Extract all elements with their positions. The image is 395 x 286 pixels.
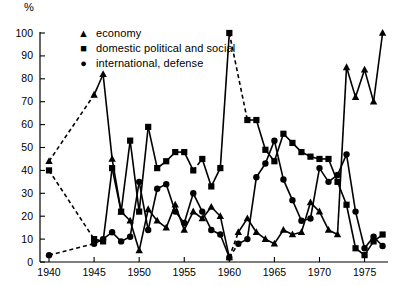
data-point-circle xyxy=(46,252,52,258)
data-point-triangle xyxy=(190,208,197,215)
data-point-square xyxy=(280,131,286,137)
data-point-circle xyxy=(118,238,124,244)
y-tick-label: 80 xyxy=(21,72,33,84)
data-point-circle xyxy=(145,227,151,233)
data-point-square xyxy=(379,231,385,237)
series-segment xyxy=(356,70,365,97)
series-segment xyxy=(356,212,365,249)
data-point-triangle xyxy=(99,70,106,77)
data-point-square xyxy=(109,165,115,171)
series-segment xyxy=(49,95,94,161)
y-tick-label: 40 xyxy=(21,164,33,176)
data-point-circle xyxy=(181,220,187,226)
data-point-circle xyxy=(226,254,232,260)
series-segment xyxy=(130,141,139,212)
x-tick-label: 1940 xyxy=(37,266,61,278)
data-point-square xyxy=(163,158,169,164)
data-point-circle xyxy=(100,236,106,242)
series-segment xyxy=(256,120,265,150)
data-point-square xyxy=(154,165,160,171)
data-point-triangle xyxy=(144,205,151,212)
series-segment xyxy=(229,33,247,120)
line-chart: % ▲ economy ■ domestic political and soc… xyxy=(0,0,395,286)
data-point-triangle xyxy=(325,226,332,233)
data-point-square xyxy=(289,140,295,146)
y-tick-label: 10 xyxy=(21,233,33,245)
data-point-circle xyxy=(154,186,160,192)
data-point-triangle xyxy=(343,63,350,70)
data-point-triangle xyxy=(108,155,115,162)
series-segment xyxy=(139,127,148,212)
data-point-square xyxy=(271,158,277,164)
series-segment xyxy=(347,67,356,97)
data-point-square xyxy=(46,167,52,173)
series-segment xyxy=(202,159,211,186)
data-point-triangle xyxy=(90,91,97,98)
x-tick-label: 1950 xyxy=(127,266,151,278)
x-tick-label: 1970 xyxy=(308,266,332,278)
y-tick-label: 30 xyxy=(21,187,33,199)
data-point-square xyxy=(118,209,124,215)
x-tick-label: 1965 xyxy=(263,266,287,278)
data-point-circle xyxy=(217,231,223,237)
data-point-square xyxy=(298,149,304,155)
data-point-triangle xyxy=(280,226,287,233)
series-economy xyxy=(45,29,386,260)
series-international xyxy=(46,137,386,260)
series-segment xyxy=(374,33,383,102)
data-point-square xyxy=(244,117,250,123)
series-domestic xyxy=(46,30,386,258)
data-point-square xyxy=(352,245,358,251)
series-segment xyxy=(184,193,193,223)
y-tick-label: 50 xyxy=(21,141,33,153)
data-point-square xyxy=(334,179,340,185)
series-segment xyxy=(49,244,94,255)
data-point-circle xyxy=(109,229,115,235)
data-point-square xyxy=(172,149,178,155)
data-point-circle xyxy=(325,179,331,185)
data-point-square xyxy=(226,30,232,36)
data-point-square xyxy=(208,183,214,189)
chart-plot-area: 0102030405060708090100194019451950195519… xyxy=(0,0,395,286)
series-segment xyxy=(103,74,112,159)
series-segment xyxy=(220,33,229,168)
y-tick-label: 100 xyxy=(15,27,33,39)
data-point-triangle xyxy=(163,224,170,231)
y-tick-label: 70 xyxy=(21,95,33,107)
data-point-square xyxy=(316,156,322,162)
data-point-circle xyxy=(235,240,241,246)
series-segment xyxy=(121,141,130,212)
data-point-triangle xyxy=(352,93,359,100)
data-point-square xyxy=(307,154,313,160)
data-point-circle xyxy=(298,218,304,224)
data-point-triangle xyxy=(208,203,215,210)
data-point-square xyxy=(199,156,205,162)
data-point-circle xyxy=(307,215,313,221)
data-point-circle xyxy=(343,151,349,157)
x-tick-label: 1960 xyxy=(218,266,242,278)
series-segment xyxy=(166,184,175,211)
data-point-circle xyxy=(172,208,178,214)
series-segment xyxy=(292,200,301,221)
data-point-circle xyxy=(379,243,385,249)
data-point-square xyxy=(325,156,331,162)
data-point-triangle xyxy=(379,29,386,36)
data-point-circle xyxy=(289,197,295,203)
data-point-circle xyxy=(352,208,358,214)
data-point-circle xyxy=(163,181,169,187)
y-tick-label: 20 xyxy=(21,210,33,222)
data-point-circle xyxy=(199,208,205,214)
series-segment xyxy=(338,67,347,234)
series-segment xyxy=(283,180,292,201)
series-segment xyxy=(365,70,374,102)
data-point-circle xyxy=(316,165,322,171)
data-point-triangle xyxy=(298,228,305,235)
data-point-square xyxy=(262,147,268,153)
x-tick-label: 1945 xyxy=(82,266,106,278)
data-point-circle xyxy=(127,234,133,240)
data-point-circle xyxy=(91,240,97,246)
data-point-circle xyxy=(370,234,376,240)
data-point-square xyxy=(145,124,151,130)
data-point-square xyxy=(181,149,187,155)
data-point-square xyxy=(190,167,196,173)
